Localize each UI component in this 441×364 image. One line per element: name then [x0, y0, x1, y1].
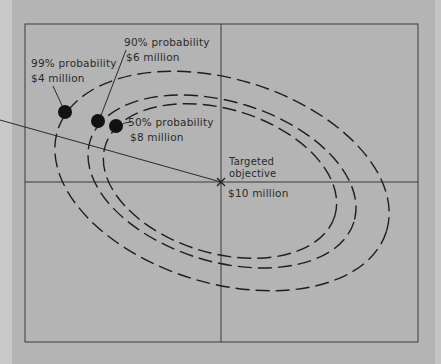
label-target-line2: objective [229, 168, 276, 179]
point-50 [109, 119, 123, 133]
label-target-value: $10 million [228, 187, 289, 199]
point-90 [91, 114, 105, 128]
label-90-probability: 90% probability [124, 36, 210, 48]
label-50-probability: 50% probability [128, 116, 214, 128]
point-99 [58, 105, 72, 119]
label-target-line1: Targeted [229, 156, 274, 167]
label-50-value: $8 million [130, 131, 184, 143]
diagram-canvas [0, 0, 441, 364]
label-99-value: $4 million [31, 72, 85, 84]
label-90-value: $6 million [126, 51, 180, 63]
label-99-probability: 99% probability [31, 57, 117, 69]
